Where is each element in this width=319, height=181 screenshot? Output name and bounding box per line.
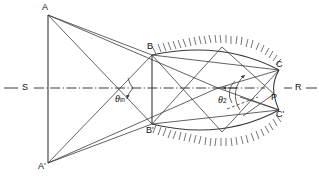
label-cavity-bottom: C' — [276, 110, 284, 119]
diagram-canvas — [0, 0, 319, 181]
label-cavity-top: C — [276, 60, 283, 69]
label-axis-left: S — [22, 83, 28, 92]
ray-a-to-focus — [48, 15, 218, 88]
label-angle-two: θ2 — [218, 95, 227, 105]
angle-in-arc — [127, 88, 133, 99]
ray-bprime-to-cprime — [152, 110, 279, 124]
ray-p-to-cprime — [243, 94, 274, 116]
hatching-lower-wall — [153, 115, 281, 146]
ray-focus-to-c — [218, 70, 279, 88]
ray-aprime-to-b — [48, 55, 152, 163]
ray-a-to-bprime — [48, 15, 152, 124]
label-aperture-bottom: B' — [146, 126, 154, 135]
cavity-lower-wall — [152, 110, 279, 130]
cavity-right-wall — [274, 70, 279, 110]
ray-apex-top-to-p — [222, 47, 274, 94]
angle-two-subscript: 2 — [223, 97, 227, 104]
ray-a-to-b — [48, 15, 152, 55]
cavity-upper-wall — [152, 50, 279, 70]
label-source-bottom: A' — [38, 162, 46, 171]
optical-ray-diagram: A A' B B' C C' P S R θin θ2 — [0, 0, 319, 181]
label-angle-in: θin — [115, 94, 125, 104]
label-exit-point: P — [271, 93, 277, 102]
label-axis-right: R — [295, 83, 302, 92]
label-aperture-top: B — [147, 42, 153, 51]
ray-aprime-to-bprime — [48, 124, 152, 163]
angle-in-subscript: in — [120, 96, 125, 103]
hatching-upper-wall — [152, 35, 281, 65]
ray-lines — [4, 15, 317, 163]
label-source-top: A — [42, 3, 48, 12]
angle-in-arc-upper — [128, 78, 133, 88]
